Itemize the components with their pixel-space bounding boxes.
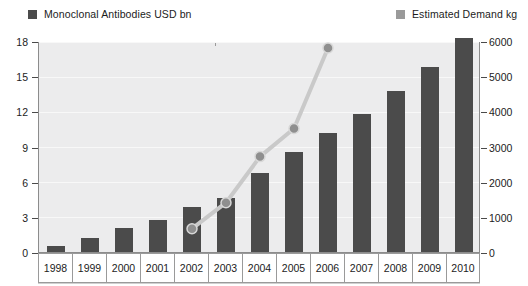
y-axis-right-tick [481,112,487,113]
axis-stub [215,42,216,46]
legend-item-monoclonal-antibodies: Monoclonal Antibodies USD bn [28,8,192,20]
y-axis-left-tick-label: 18 [2,36,28,48]
bar [149,220,167,253]
square-swatch-icon [396,10,405,19]
bar [183,207,201,253]
legend-label: Monoclonal Antibodies USD bn [44,8,192,20]
y-axis-right-tick-label: 3000 [489,142,527,154]
y-axis-left-tick-label: 0 [2,247,28,259]
gridline [39,112,479,113]
y-axis-right-tick-label: 0 [489,247,527,259]
y-axis-right-tick-label: 2000 [489,177,527,189]
x-axis-tick-label: 2001 [140,253,174,283]
y-axis-right-tick [481,148,487,149]
y-axis-right-tick-label: 5000 [489,71,527,83]
y-axis-right-tick [481,183,487,184]
x-axis-tick-label: 2010 [446,253,480,283]
y-axis-right-tick-label: 4000 [489,106,527,118]
square-swatch-icon [28,10,37,19]
x-axis-tick-label: 2009 [412,253,446,283]
chart-legend: Monoclonal Antibodies USD bn Estimated D… [0,8,528,26]
gridline [39,42,479,43]
bar [217,198,235,253]
y-axis-right-tick-label: 1000 [489,212,527,224]
x-axis-tick-label: 1998 [38,253,72,283]
legend-label: Estimated Demand kg [412,8,517,20]
y-axis-right-tick [481,42,487,43]
x-axis: 1998199920002001200220032004200520062007… [38,253,480,283]
y-axis-right-tick-label: 6000 [489,36,527,48]
x-axis-tick-label: 2002 [174,253,208,283]
bar [115,228,133,253]
y-axis-right-tick [481,253,487,254]
x-axis-tick-label: 2008 [378,253,412,283]
bar [421,67,439,253]
bar [285,152,303,253]
y-axis-left-tick-label: 6 [2,177,28,189]
chart-root: Monoclonal Antibodies USD bn Estimated D… [0,0,528,286]
x-axis-tick-label: 2006 [310,253,344,283]
line-marker [289,124,299,134]
x-axis-tick-label: 1999 [72,253,106,283]
gridline [39,147,479,148]
legend-item-estimated-demand: Estimated Demand kg [396,8,517,20]
x-axis-tick-label: 2004 [242,253,276,283]
bar [319,133,337,253]
x-axis-tick-label: 2007 [344,253,378,283]
plot-area [38,42,480,253]
bar [353,114,371,253]
line-marker [255,152,265,162]
gridline [39,77,479,78]
bar [455,38,473,253]
x-axis-tick-label: 2003 [208,253,242,283]
bar [251,173,269,253]
bar [81,238,99,253]
x-axis-tick-label: 2005 [276,253,310,283]
y-axis-right-tick [481,218,487,219]
footer-rule [38,283,480,284]
y-axis-right-tick [481,77,487,78]
y-axis-left-tick-label: 9 [2,142,28,154]
y-axis-left-tick-label: 3 [2,212,28,224]
y-axis-left-tick-label: 15 [2,71,28,83]
y-axis-left-tick-label: 12 [2,106,28,118]
x-axis-tick-label: 2000 [106,253,140,283]
bar [387,91,405,253]
line-marker [323,43,333,53]
